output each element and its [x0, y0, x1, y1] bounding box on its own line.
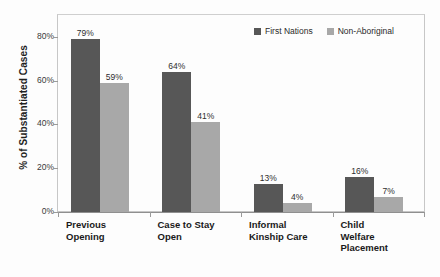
- cut-off-title-text: [57, 0, 357, 2]
- bar-value-label: 59%: [97, 72, 132, 82]
- bar-value-label: 64%: [159, 61, 194, 71]
- y-tick-mark: [53, 124, 58, 125]
- x-tick-mark: [58, 212, 59, 217]
- bar-value-label: 16%: [342, 166, 377, 176]
- bar-value-label: 79%: [68, 28, 103, 38]
- bar-value-label: 7%: [371, 186, 406, 196]
- x-tick-mark: [150, 212, 151, 217]
- legend-item-first-nations: First Nations: [254, 26, 313, 36]
- bar-non-aboriginal: [191, 122, 220, 212]
- bar-non-aboriginal: [283, 203, 312, 212]
- y-tick-label: 40%: [21, 118, 54, 128]
- bar-non-aboriginal: [374, 197, 403, 212]
- legend-label: Non-Aboriginal: [338, 26, 394, 36]
- chart-legend: First Nations Non-Aboriginal: [254, 26, 394, 36]
- x-category-label: Child Welfare Placement: [341, 219, 427, 254]
- x-category-label: Informal Kinship Care: [249, 219, 335, 242]
- x-tick-mark: [333, 212, 334, 217]
- y-tick-label: 60%: [21, 75, 54, 85]
- y-tick-label: 80%: [21, 31, 54, 41]
- bar-chart-figure: % of Substantiated Cases First Nations N…: [0, 0, 440, 277]
- bar-value-label: 13%: [251, 173, 286, 183]
- legend-swatch-icon: [254, 28, 261, 35]
- bar-first-nations: [254, 184, 283, 212]
- y-tick-mark: [53, 37, 58, 38]
- legend-swatch-icon: [327, 28, 334, 35]
- legend-label: First Nations: [265, 26, 313, 36]
- x-tick-mark: [424, 212, 425, 217]
- y-tick-mark: [53, 168, 58, 169]
- bar-first-nations: [71, 39, 100, 212]
- plot-area: [58, 15, 424, 212]
- x-category-label: Case to Stay Open: [158, 219, 244, 242]
- bar-first-nations: [345, 177, 374, 212]
- bar-value-label: 41%: [188, 111, 223, 121]
- y-tick-mark: [53, 81, 58, 82]
- y-tick-label: 0%: [21, 206, 54, 216]
- bar-non-aboriginal: [100, 83, 129, 212]
- y-axis: [22, 14, 57, 212]
- legend-item-non-aboriginal: Non-Aboriginal: [327, 26, 394, 36]
- x-tick-mark: [241, 212, 242, 217]
- y-tick-label: 20%: [21, 162, 54, 172]
- bar-first-nations: [162, 72, 191, 212]
- bar-value-label: 4%: [280, 192, 315, 202]
- x-category-label: Previous Opening: [66, 219, 152, 242]
